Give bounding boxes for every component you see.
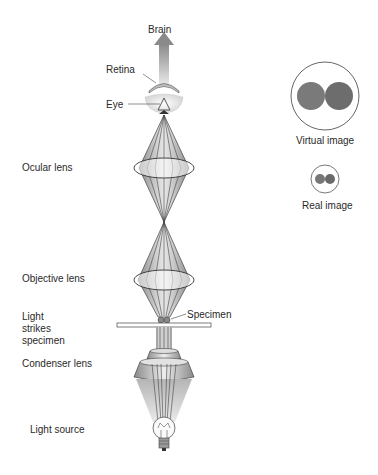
- light-strikes-label-3: specimen: [22, 335, 65, 347]
- ocular-lens-shape: [134, 158, 194, 178]
- retina-shape: [149, 84, 179, 94]
- slide-shape: [117, 323, 211, 327]
- brain-arrow-icon: [154, 32, 174, 84]
- specimen-shape: [158, 317, 170, 323]
- condenser-lens-label: Condenser lens: [22, 358, 92, 370]
- ocular-light-cone: [134, 115, 194, 222]
- objective-lens-label: Objective lens: [22, 273, 85, 285]
- microscope-optics-diagram: [0, 0, 378, 475]
- ocular-lens-label: Ocular lens: [22, 162, 73, 174]
- real-image-label: Real image: [302, 200, 353, 212]
- objective-lens-shape: [134, 270, 194, 290]
- light-source-label: Light source: [30, 424, 84, 436]
- condenser-lens-shape: [134, 349, 194, 381]
- objective-light-cone: [134, 222, 194, 317]
- specimen-label: Specimen: [187, 309, 231, 321]
- light-strikes-label-1: Light: [22, 311, 44, 323]
- retina-label: Retina: [106, 64, 135, 76]
- virtual-image-label: Virtual image: [296, 135, 354, 147]
- light-strikes-label-2: strikes: [22, 323, 51, 335]
- parallel-beams: [156, 327, 172, 351]
- real-image-icon: [311, 165, 339, 193]
- light-bulb-icon: [153, 417, 175, 451]
- eye-label: Eye: [106, 99, 123, 111]
- brain-label: Brain: [148, 24, 171, 36]
- virtual-image-icon: [291, 62, 359, 130]
